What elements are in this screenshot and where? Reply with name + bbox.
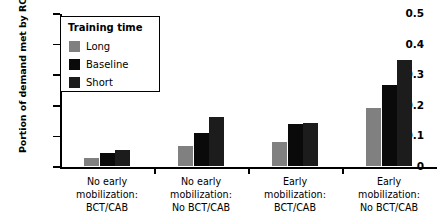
- x-group-label: No early mobilization: No BCT/CAB: [154, 175, 248, 215]
- bar-long-group-2: [178, 146, 193, 166]
- bar-short-group-3: [303, 123, 318, 166]
- y-tick-mark: [53, 44, 60, 46]
- bar-baseline-group-3: [288, 124, 303, 166]
- legend: Training time LongBaselineShort: [60, 16, 160, 92]
- x-group-label: Early mobilization: BCT/CAB: [248, 175, 342, 215]
- legend-swatch-icon: [69, 59, 80, 70]
- legend-swatch-icon: [69, 77, 80, 88]
- x-group-label: No early mobilization: BCT/CAB: [60, 175, 154, 215]
- y-tick-mark: [53, 105, 60, 107]
- bar-chart-figure: Portion of demand met by RC 00.10.20.30.…: [0, 0, 444, 223]
- legend-swatch-icon: [69, 41, 80, 52]
- bar-long-group-4: [366, 108, 381, 166]
- bar-short-group-1: [115, 150, 130, 166]
- bar-short-group-4: [397, 60, 412, 166]
- bar-short-group-2: [209, 117, 224, 166]
- legend-label: Short: [86, 77, 113, 88]
- bar-baseline-group-2: [194, 133, 209, 166]
- bar-baseline-group-4: [382, 85, 397, 166]
- legend-entry-baseline: Baseline: [69, 56, 128, 72]
- y-axis-title: Portion of demand met by RC: [17, 0, 28, 160]
- legend-label: Baseline: [86, 59, 128, 70]
- y-tick-label: 0.4: [378, 39, 424, 50]
- legend-entry-short: Short: [69, 74, 113, 90]
- x-axis-separator: [342, 167, 344, 174]
- y-tick-mark: [53, 166, 60, 168]
- x-axis-separator: [248, 167, 250, 174]
- legend-entry-long: Long: [69, 38, 110, 54]
- y-tick-mark: [53, 136, 60, 138]
- y-tick-mark: [53, 13, 60, 15]
- bar-long-group-1: [84, 158, 99, 166]
- bar-long-group-3: [272, 142, 287, 166]
- y-tick-mark: [53, 74, 60, 76]
- y-tick-label: 0.5: [378, 8, 424, 19]
- x-axis-separator: [154, 167, 156, 174]
- legend-label: Long: [86, 41, 110, 52]
- bar-baseline-group-1: [100, 153, 115, 166]
- legend-title: Training time: [68, 22, 143, 33]
- x-group-label: Early mobilization: No BCT/CAB: [342, 175, 436, 215]
